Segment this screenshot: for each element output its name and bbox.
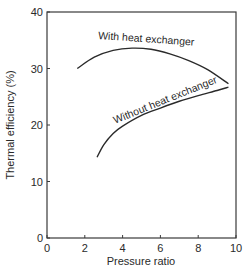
y-tick-label: 10 xyxy=(31,176,43,188)
line-chart: 0246810010203040 With heat exchanger Wit… xyxy=(0,0,251,271)
x-tick-label: 6 xyxy=(157,242,163,254)
x-tick-label: 0 xyxy=(44,242,50,254)
series-label-without-heat-exchanger: Without heat exchanger xyxy=(111,73,219,126)
x-tick-label: 8 xyxy=(195,242,201,254)
y-axis-label: Thermal efficiency (%) xyxy=(4,70,16,179)
x-tick-label: 4 xyxy=(120,242,126,254)
plot-frame xyxy=(47,12,236,238)
x-tick-label: 2 xyxy=(82,242,88,254)
y-tick-label: 20 xyxy=(31,119,43,131)
y-tick-label: 30 xyxy=(31,63,43,75)
y-tick-label: 0 xyxy=(37,232,43,244)
y-tick-label: 40 xyxy=(31,6,43,18)
x-axis-label: Pressure ratio xyxy=(107,255,175,267)
plot-area-border xyxy=(47,12,236,238)
x-tick-label: 10 xyxy=(230,242,242,254)
curve-labels: With heat exchanger Without heat exchang… xyxy=(98,29,219,126)
series-label-with-heat-exchanger: With heat exchanger xyxy=(98,29,195,48)
